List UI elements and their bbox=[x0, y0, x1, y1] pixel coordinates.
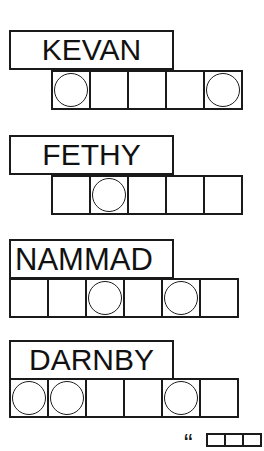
circle-marker-icon bbox=[88, 281, 122, 315]
letter-cell[interactable] bbox=[199, 278, 239, 318]
letter-cell[interactable] bbox=[89, 70, 129, 110]
final-answer-cell[interactable] bbox=[206, 433, 226, 447]
scrambled-word-4: DARNBY bbox=[9, 340, 174, 380]
answer-row-4 bbox=[9, 378, 239, 418]
letter-cell[interactable] bbox=[127, 70, 167, 110]
letter-cell[interactable] bbox=[199, 378, 239, 418]
answer-row-3 bbox=[9, 278, 239, 318]
circle-marker-icon bbox=[54, 73, 88, 107]
scrambled-word-3: NAMMAD bbox=[9, 239, 174, 279]
letter-cell[interactable] bbox=[47, 278, 87, 318]
letter-cell[interactable] bbox=[161, 378, 201, 418]
scrambled-word-1: KEVAN bbox=[9, 30, 174, 70]
answer-row-2 bbox=[51, 175, 243, 215]
final-answer-cell[interactable] bbox=[242, 433, 262, 447]
circle-marker-icon bbox=[92, 178, 126, 212]
letter-cell[interactable] bbox=[123, 378, 163, 418]
letter-cell[interactable] bbox=[127, 175, 167, 215]
letter-cell[interactable] bbox=[203, 175, 243, 215]
letter-cell[interactable] bbox=[51, 175, 91, 215]
letter-cell[interactable] bbox=[9, 278, 49, 318]
final-answer-cell[interactable] bbox=[224, 433, 244, 447]
letter-cell[interactable] bbox=[165, 175, 205, 215]
circle-marker-icon bbox=[206, 73, 240, 107]
letter-cell[interactable] bbox=[123, 278, 163, 318]
letter-cell[interactable] bbox=[161, 278, 201, 318]
answer-row-1 bbox=[51, 70, 243, 110]
circle-marker-icon bbox=[164, 381, 198, 415]
letter-cell[interactable] bbox=[47, 378, 87, 418]
letter-cell[interactable] bbox=[203, 70, 243, 110]
answer-open-quote: “ bbox=[184, 430, 193, 451]
circle-marker-icon bbox=[12, 381, 46, 415]
letter-cell[interactable] bbox=[85, 378, 125, 418]
scrambled-word-2: FETHY bbox=[9, 135, 174, 175]
letter-cell[interactable] bbox=[9, 378, 49, 418]
circle-marker-icon bbox=[50, 381, 84, 415]
letter-cell[interactable] bbox=[165, 70, 205, 110]
circle-marker-icon bbox=[164, 281, 198, 315]
letter-cell[interactable] bbox=[85, 278, 125, 318]
letter-cell[interactable] bbox=[89, 175, 129, 215]
letter-cell[interactable] bbox=[51, 70, 91, 110]
